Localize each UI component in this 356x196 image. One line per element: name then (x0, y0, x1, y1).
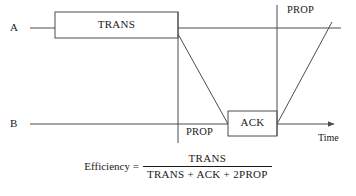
formula-lead-text: Efficiency = (84, 160, 139, 172)
prop-label-top: PROP (287, 5, 314, 16)
time-axis-label: Time (318, 133, 339, 143)
timeline-a-label: A (10, 22, 18, 33)
efficiency-formula: Efficiency = TRANS TRANS + ACK + 2PROP (0, 152, 356, 180)
propagation-edge-a-to-b (178, 34, 228, 124)
timeline-b-label: B (10, 118, 17, 129)
formula-fraction: TRANS TRANS + ACK + 2PROP (143, 152, 272, 180)
ack-box-label: ACK (228, 117, 277, 128)
formula-denominator: TRANS + ACK + 2PROP (143, 167, 272, 181)
formula-numerator: TRANS (183, 152, 233, 166)
propagation-edge-b-to-a (277, 22, 332, 124)
timing-diagram-figure: A B TRANS ACK PROP PROP Time Efficiency … (0, 0, 356, 196)
prop-label-bottom: PROP (186, 127, 213, 138)
trans-box-label: TRANS (55, 19, 178, 30)
